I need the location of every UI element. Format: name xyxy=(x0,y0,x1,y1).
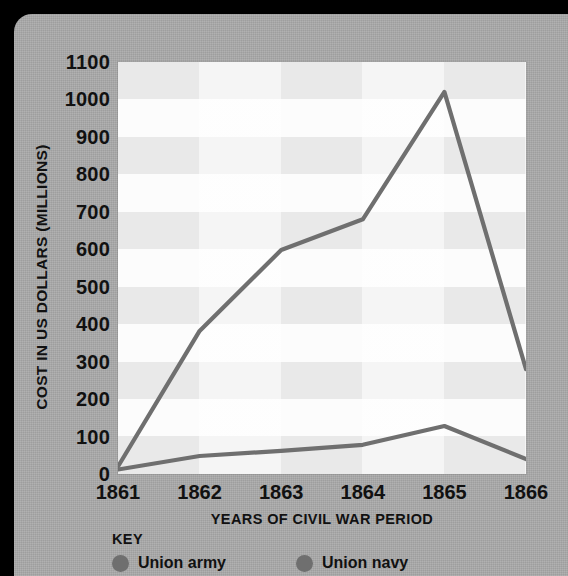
legend-title: KEY xyxy=(112,531,143,547)
y-axis-tick-label: 1000 xyxy=(48,89,110,109)
x-axis-ticks: 186118621863186418651866 xyxy=(118,482,526,508)
series-lines xyxy=(118,62,526,474)
y-axis-tick-label: 600 xyxy=(48,239,110,259)
y-axis-tick-label: 700 xyxy=(48,202,110,222)
y-axis-tick-label: 900 xyxy=(48,127,110,147)
x-axis-tick-label: 1866 xyxy=(481,482,568,502)
y-axis-tick-label: 400 xyxy=(48,314,110,334)
legend-marker-circle-icon xyxy=(296,555,313,572)
y-axis-tick-label: 100 xyxy=(48,427,110,447)
x-axis-tick-label: 1862 xyxy=(155,482,245,502)
plot-area xyxy=(118,62,526,474)
y-axis-tick-label: 500 xyxy=(48,277,110,297)
legend-item[interactable]: Union navy xyxy=(296,552,408,574)
x-axis-tick-label: 1863 xyxy=(236,482,326,502)
legend-item[interactable]: Union army xyxy=(112,552,226,574)
legend-item-label: Union army xyxy=(138,554,226,572)
x-axis-tick-label: 1864 xyxy=(318,482,408,502)
series-line-union-army xyxy=(118,92,526,467)
legend-item-label: Union navy xyxy=(322,554,408,572)
series-line-union-navy xyxy=(118,426,526,469)
legend: Union armyUnion navy xyxy=(112,552,512,576)
x-axis-tick-label: 1861 xyxy=(73,482,163,502)
x-axis-title: YEARS OF CIVIL WAR PERIOD xyxy=(118,511,526,527)
y-axis-title: COST IN US DOLLARS (MILLIONS) xyxy=(33,127,51,427)
y-axis-tick-label: 800 xyxy=(48,164,110,184)
y-axis-tick-label: 1100 xyxy=(48,52,110,72)
y-axis-tick-label: 200 xyxy=(48,389,110,409)
legend-marker-circle-icon xyxy=(112,555,129,572)
x-axis-tick-label: 1865 xyxy=(399,482,489,502)
y-axis-tick-label: 300 xyxy=(48,352,110,372)
